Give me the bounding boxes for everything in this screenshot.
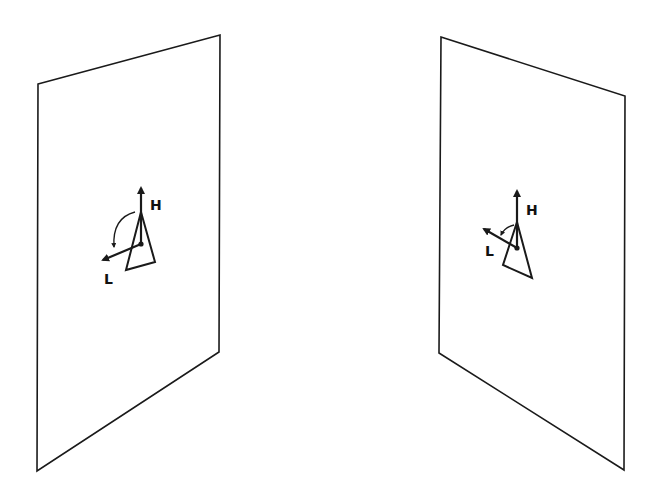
- left-facet-group: H L: [103, 188, 162, 287]
- left-l-light-arrow: [103, 244, 141, 260]
- left-h-label: H: [150, 197, 162, 213]
- right-angle-arc: [501, 225, 514, 235]
- left-plane-outline: [37, 35, 220, 471]
- right-panel: H L: [439, 37, 625, 470]
- right-h-label: H: [526, 202, 538, 218]
- left-angle-arc: [114, 212, 135, 247]
- right-l-label: L: [485, 243, 494, 259]
- right-plane-outline: [439, 37, 625, 470]
- right-facet-group: H L: [484, 191, 538, 278]
- diagram-canvas: H L H L: [0, 0, 656, 495]
- left-l-label: L: [104, 271, 113, 287]
- left-panel: H L: [37, 35, 220, 471]
